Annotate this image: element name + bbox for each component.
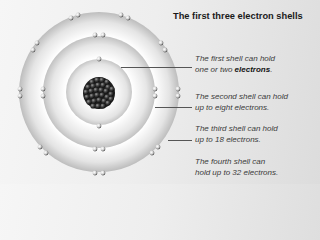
note-fourth-shell: The fourth shell can hold up to 32 elect…: [195, 157, 303, 178]
note-line: The fourth shell can: [195, 157, 303, 168]
note-third-shell: The third shell can hold up to 18 electr…: [195, 124, 303, 145]
note-line: one or two electrons.: [195, 65, 303, 76]
nucleus: [83, 77, 115, 109]
electrons-keyword: electrons: [235, 65, 271, 74]
note-line: hold up to 32 electrons.: [195, 168, 303, 179]
atom-diagram: [0, 0, 200, 184]
note-line: up to eight electrons.: [195, 103, 303, 114]
leader-line-second-shell: [155, 107, 192, 108]
note-second-shell: The second shell can hold up to eight el…: [195, 92, 303, 113]
note-line: The first shell can hold: [195, 54, 303, 65]
note-first-shell: The first shell can hold one or two elec…: [195, 54, 303, 75]
leader-line-third-shell: [168, 140, 192, 141]
note-line: up to 18 electrons.: [195, 135, 303, 146]
diagram-title: The first three electron shells: [173, 11, 303, 21]
note-line: The second shell can hold: [195, 92, 303, 103]
note-text: .: [270, 65, 272, 74]
atom-shells-graphic: [0, 0, 200, 184]
note-text: one or two: [195, 65, 235, 74]
leader-line-first-shell: [121, 67, 192, 68]
note-line: The third shell can hold: [195, 124, 303, 135]
